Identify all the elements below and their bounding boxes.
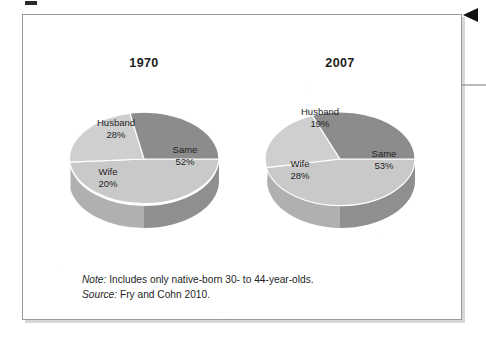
note-line: Note: Includes only native-born 30- to 4… xyxy=(82,272,314,287)
figure-notes: Note: Includes only native-born 30- to 4… xyxy=(82,272,314,302)
pie-graphic-2007: Husband 19% Same 53% Wife 28% xyxy=(255,84,425,234)
chart-title-2007: 2007 xyxy=(240,56,440,70)
figure-root: 1970 Husband xyxy=(0,0,486,340)
page-tick-mark xyxy=(25,1,37,5)
margin-rule xyxy=(462,84,486,86)
source-label: Source: xyxy=(82,289,117,300)
pie-svg-2007 xyxy=(255,84,425,234)
callout-arrow-icon xyxy=(463,8,478,22)
source-text: Fry and Cohn 2010. xyxy=(117,289,210,300)
pie-slice-husband-1970 xyxy=(130,112,219,159)
chart-title-1970: 1970 xyxy=(44,56,244,70)
pie-graphic-1970: Husband 28% Same 52% Wife 20% xyxy=(59,84,229,234)
note-text: Includes only native-born 30- to 44-year… xyxy=(106,274,313,285)
charts-container: 1970 Husband xyxy=(22,14,462,320)
pie-chart-1970: 1970 Husband xyxy=(44,14,244,264)
source-line: Source: Fry and Cohn 2010. xyxy=(82,287,314,302)
note-label: Note: xyxy=(82,274,106,285)
pie-svg-1970 xyxy=(59,84,229,234)
pie-chart-2007: 2007 Husband 19% Same xyxy=(240,14,440,264)
